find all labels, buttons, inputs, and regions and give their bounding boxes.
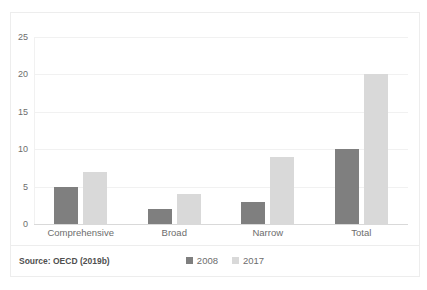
y-axis-tick-label: 5 bbox=[23, 182, 28, 191]
bar[interactable] bbox=[270, 157, 294, 224]
x-axis-tick-labels: ComprehensiveBroadNarrowTotal bbox=[34, 227, 408, 238]
bar-groups bbox=[34, 37, 408, 224]
y-axis-tick-label: 20 bbox=[18, 70, 28, 79]
y-axis-tick-label: 15 bbox=[18, 107, 28, 116]
legend-swatch-icon bbox=[232, 257, 239, 264]
x-axis-tick-label: Narrow bbox=[221, 227, 315, 238]
bar-group bbox=[34, 37, 128, 224]
x-axis-tick-label: Total bbox=[315, 227, 409, 238]
bar[interactable] bbox=[241, 202, 265, 224]
bar[interactable] bbox=[54, 187, 78, 224]
y-axis-tick-label: 0 bbox=[23, 220, 28, 229]
bar-group bbox=[315, 37, 409, 224]
x-axis-tick-label: Broad bbox=[128, 227, 222, 238]
x-axis-tick-label: Comprehensive bbox=[34, 227, 128, 238]
x-axis-line bbox=[34, 224, 408, 225]
plot-area: 0510152025 bbox=[34, 37, 408, 225]
bar-group bbox=[128, 37, 222, 224]
y-axis-tick-label: 10 bbox=[18, 145, 28, 154]
y-axis-tick-label: 25 bbox=[18, 33, 28, 42]
bar[interactable] bbox=[335, 149, 359, 224]
legend-label: 2008 bbox=[197, 255, 218, 266]
bar-group bbox=[221, 37, 315, 224]
bar[interactable] bbox=[83, 172, 107, 224]
chart-legend: 20082017 bbox=[11, 255, 419, 266]
legend-item[interactable]: 2017 bbox=[232, 255, 264, 266]
legend-item[interactable]: 2008 bbox=[186, 255, 218, 266]
chart-footer: Source: OECD (2019b) 20082017 bbox=[11, 245, 419, 278]
bar[interactable] bbox=[148, 209, 172, 224]
chart-figure: 0510152025 ComprehensiveBroadNarrowTotal… bbox=[10, 12, 420, 277]
bar[interactable] bbox=[177, 194, 201, 224]
legend-label: 2017 bbox=[243, 255, 264, 266]
legend-swatch-icon bbox=[186, 257, 193, 264]
bar[interactable] bbox=[364, 74, 388, 224]
